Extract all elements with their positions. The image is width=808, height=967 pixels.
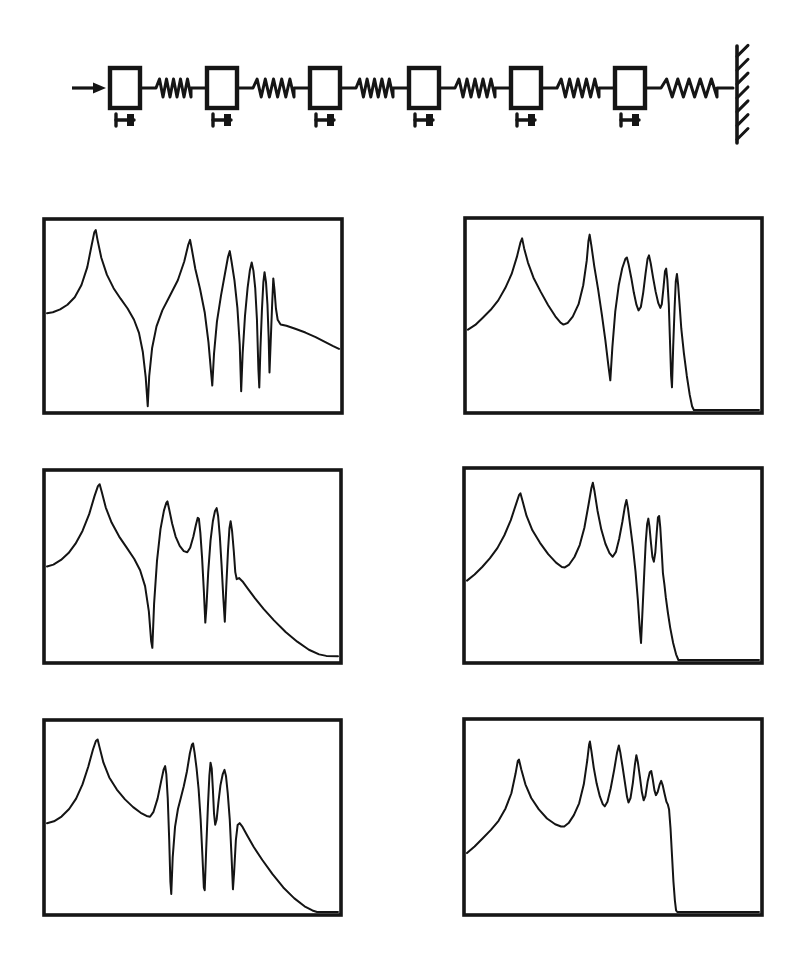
plot-frame-plot-5	[44, 720, 341, 915]
mass-block-5	[511, 68, 541, 108]
mass-block-3	[310, 68, 340, 108]
frf-plot-plot-4	[464, 468, 762, 663]
mass-block-2	[207, 68, 237, 108]
mass-block-4	[409, 68, 439, 108]
damper-piston-5	[528, 114, 535, 126]
damper-piston-3	[327, 114, 334, 126]
frf-plot-plot-1	[44, 219, 342, 413]
figure-canvas	[0, 0, 808, 967]
damper-piston-1	[127, 114, 134, 126]
mass-block-6	[615, 68, 645, 108]
frf-plot-plot-3	[44, 470, 341, 663]
plot-frame-plot-3	[44, 470, 341, 663]
plot-frame-plot-1	[44, 219, 342, 413]
frf-plot-plot-5	[44, 720, 341, 915]
damper-piston-4	[426, 114, 433, 126]
plot-frame-plot-4	[464, 468, 762, 663]
frf-plot-plot-6	[464, 719, 762, 915]
plot-frame-plot-2	[465, 218, 762, 413]
plot-frame-plot-6	[464, 719, 762, 915]
damper-piston-6	[632, 114, 639, 126]
damper-piston-2	[224, 114, 231, 126]
mass-block-1	[110, 68, 140, 108]
figure-root	[0, 0, 808, 967]
frf-plot-plot-2	[465, 218, 762, 413]
